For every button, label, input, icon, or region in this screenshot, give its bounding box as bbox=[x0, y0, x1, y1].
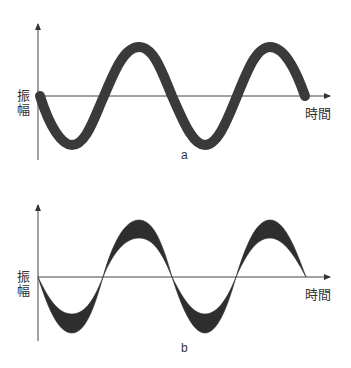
caption-a: a bbox=[181, 148, 188, 162]
caption-b: b bbox=[181, 341, 188, 355]
diagram-b bbox=[38, 205, 330, 341]
y-axis-label-b-line2: 幅 bbox=[16, 284, 30, 298]
y-axis-label-b-line1: 振 bbox=[16, 270, 30, 284]
y-axis-label-a-line2: 幅 bbox=[16, 103, 30, 117]
diagram-canvas bbox=[0, 0, 351, 368]
diagram-a bbox=[38, 24, 330, 160]
x-axis-label-b: 時間 bbox=[305, 288, 331, 302]
y-axis-label-a: 振 幅 bbox=[16, 89, 30, 117]
y-axis-label-b: 振 幅 bbox=[16, 270, 30, 298]
x-axis-label-a: 時間 bbox=[305, 107, 331, 121]
y-axis-label-a-line1: 振 bbox=[16, 89, 30, 103]
